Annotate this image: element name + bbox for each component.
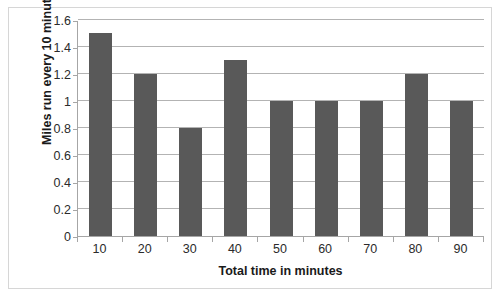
x-axis-tick-label: 20 xyxy=(138,243,152,256)
y-axis-tick-label: 0.6 xyxy=(25,150,71,163)
x-axis-tick-label: 40 xyxy=(228,243,242,256)
y-axis-tick-labels: 00.20.40.60.811.21.41.6 xyxy=(21,21,71,237)
x-axis-tick-mark xyxy=(393,237,394,242)
y-axis-tick-label: 0.8 xyxy=(25,123,71,136)
x-axis-tick-labels: 102030405060708090 xyxy=(77,243,484,263)
bar xyxy=(405,74,428,236)
x-axis-tick-mark xyxy=(122,237,123,242)
x-axis-tick-mark xyxy=(303,237,304,242)
gridline xyxy=(78,19,484,20)
x-axis-tick-mark xyxy=(348,237,349,242)
bar xyxy=(89,33,112,236)
y-axis-tick-label: 1.6 xyxy=(25,15,71,28)
x-axis-tick-label: 90 xyxy=(453,243,467,256)
x-axis-tick-label: 80 xyxy=(408,243,422,256)
x-axis-tick-mark xyxy=(483,237,484,242)
x-axis-tick-mark xyxy=(212,237,213,242)
bar xyxy=(360,101,383,236)
clipped-header-strip xyxy=(10,0,310,6)
y-axis-tick-label: 1.4 xyxy=(25,42,71,55)
bar xyxy=(450,101,473,236)
x-axis-tick-label: 60 xyxy=(318,243,332,256)
bar xyxy=(179,128,202,236)
bar xyxy=(315,101,338,236)
y-axis-tick-label: 0 xyxy=(25,231,71,244)
x-axis-tick-label: 50 xyxy=(273,243,287,256)
x-axis-tick-label: 10 xyxy=(93,243,107,256)
plot-area xyxy=(77,21,484,237)
x-axis-tick-label: 70 xyxy=(363,243,377,256)
bar xyxy=(224,60,247,236)
bar xyxy=(270,101,293,236)
x-axis-tick-mark xyxy=(167,237,168,242)
y-axis-tick-label: 0.2 xyxy=(25,204,71,217)
y-axis-tick-label: 1 xyxy=(25,96,71,109)
x-axis-tick-mark xyxy=(257,237,258,242)
y-axis-tick-label: 0.4 xyxy=(25,177,71,190)
x-axis-title: Total time in minutes xyxy=(77,264,484,278)
y-axis-tick-label: 1.2 xyxy=(25,69,71,82)
x-axis-tick-label: 30 xyxy=(183,243,197,256)
x-axis-tick-mark xyxy=(77,237,78,242)
chart-frame: Miles run every 10 minutes 00.20.40.60.8… xyxy=(8,7,492,289)
bar xyxy=(134,74,157,236)
gridline xyxy=(78,46,484,47)
x-axis-tick-mark xyxy=(438,237,439,242)
